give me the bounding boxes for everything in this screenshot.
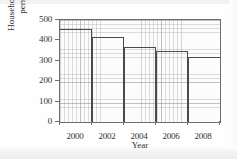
x-tick-1999 (59, 121, 60, 125)
x-tick-label-2002: 2002 (98, 131, 115, 141)
y-tick-label-200: 200 (0, 75, 52, 85)
x-tick-label-2004: 2004 (130, 131, 147, 141)
y-axis-label-line2: person (kg) (17, 0, 28, 14)
y-tick-300 (55, 60, 59, 61)
y-tick-500 (55, 19, 59, 20)
y-tick-label-500: 500 (0, 14, 52, 24)
bar-2008 (188, 57, 220, 122)
y-tick-label-100: 100 (0, 96, 52, 106)
y-tick-label-400: 400 (0, 34, 52, 44)
x-tick-2001 (91, 121, 92, 125)
y-tick-400 (55, 39, 59, 40)
plot-area (59, 19, 221, 123)
y-tick-100 (55, 101, 59, 102)
x-tick-label-2000: 2000 (66, 131, 83, 141)
x-axis-label: Year (59, 140, 221, 150)
y-tick-label-0: 0 (0, 116, 52, 126)
bar-2006 (156, 51, 188, 122)
y-tick-200 (55, 80, 59, 81)
x-tick-label-2006: 2006 (162, 131, 179, 141)
x-tick-2009 (219, 121, 220, 125)
x-tick-2003 (123, 121, 124, 125)
chart-figure: Household waste per person (kg) Year 010… (0, 0, 237, 159)
bar-2000 (60, 29, 92, 122)
y-tick-label-300: 300 (0, 55, 52, 65)
x-tick-2007 (187, 121, 188, 125)
bar-2004 (124, 47, 156, 122)
scan-edge-right (229, 0, 237, 159)
scan-edge-top (0, 0, 237, 4)
x-tick-2005 (155, 121, 156, 125)
x-tick-label-2008: 2008 (194, 131, 211, 141)
bar-2002 (92, 37, 124, 122)
